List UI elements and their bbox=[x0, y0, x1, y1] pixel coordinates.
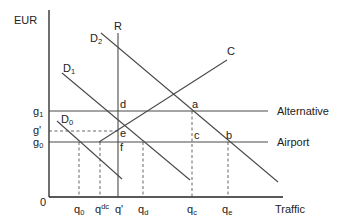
point-b-label: b bbox=[226, 129, 232, 141]
g0-label: g0 bbox=[33, 136, 43, 150]
qc-label: qc bbox=[187, 203, 197, 217]
point-f-label: f bbox=[120, 141, 124, 153]
D0-label: D0 bbox=[61, 113, 73, 127]
airport-label: Airport bbox=[277, 136, 309, 148]
x-axis-label: Traffic bbox=[275, 203, 305, 215]
q0-label: q0 bbox=[74, 203, 84, 217]
point-c-label: c bbox=[194, 129, 200, 141]
point-e-label: e bbox=[120, 127, 126, 139]
D2-label: D2 bbox=[90, 32, 102, 46]
qprime-label: q' bbox=[115, 203, 123, 215]
curves bbox=[57, 33, 278, 197]
C-label: C bbox=[227, 45, 235, 57]
R-label: R bbox=[114, 20, 122, 32]
dashed-guides bbox=[49, 111, 228, 197]
alternative-label: Alternative bbox=[277, 105, 329, 117]
g1-label: g1 bbox=[33, 105, 43, 119]
point-d-label: d bbox=[120, 98, 126, 110]
axes bbox=[49, 10, 283, 197]
D1-label: D1 bbox=[63, 62, 75, 76]
point-a-label: a bbox=[192, 98, 199, 110]
qe-label: qe bbox=[222, 203, 232, 217]
price-lines bbox=[49, 111, 268, 142]
gprime-label: g' bbox=[33, 124, 41, 136]
qd-label: qd bbox=[138, 203, 148, 217]
demand-curve-D0 bbox=[57, 121, 122, 179]
origin-label: 0 bbox=[40, 196, 46, 208]
y-axis-label: EUR bbox=[14, 14, 37, 26]
qdc-label: qdc bbox=[95, 202, 109, 215]
demand-curve-D2 bbox=[101, 33, 278, 182]
airport-pricing-diagram: EUR Traffic 0 g1 g' g0 Alternative Airpo… bbox=[0, 0, 345, 224]
